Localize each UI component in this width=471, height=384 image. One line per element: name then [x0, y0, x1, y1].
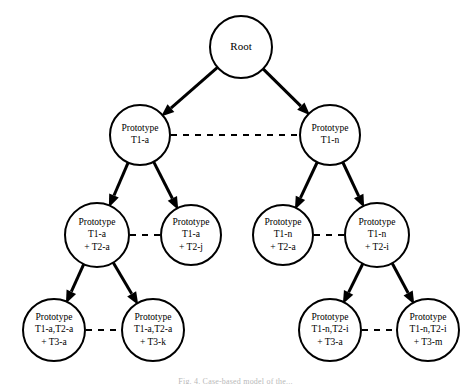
node-label-p-t1n-t2i-line-0: Prototype: [359, 217, 396, 227]
node-label-p-t1n-t2a-line-2: + T2-a: [270, 242, 296, 252]
arrow-root-to-t1n: [262, 68, 310, 115]
node-label-p-t1n-t2i-line-2: + T2-i: [365, 242, 389, 252]
arrow-t1a-t2a-to-t3a: [66, 263, 84, 303]
node-p-t1n-t2i-t3a[interactable]: PrototypeT1-n,T2-i+ T3-a: [299, 299, 361, 361]
solid-edge-layer: [66, 67, 414, 305]
node-label-p-t1a-t2a-t3a-line-0: Prototype: [36, 312, 73, 322]
arrow-t1a-to-t1a-t2j: [153, 161, 178, 210]
node-label-p-t1a-t2a-t3a-line-1: T1-a,T2-a: [35, 324, 74, 334]
node-label-root-line-0: Root: [230, 40, 251, 52]
node-layer: RootPrototypeT1-aPrototypeT1-nPrototypeT…: [23, 16, 459, 361]
node-p-t1a-t2a[interactable]: PrototypeT1-a+ T2-a: [65, 203, 129, 267]
node-label-p-t1n-t2i-t3a-line-0: Prototype: [312, 312, 349, 322]
node-p-t1a-t2a-t3k[interactable]: PrototypeT1-a,T2-a+ T3-k: [122, 299, 184, 361]
node-p-t1a-t2a-t3a[interactable]: PrototypeT1-a,T2-a+ T3-a: [23, 299, 85, 361]
node-label-p-t1n-t2i-t3m-line-0: Prototype: [410, 312, 447, 322]
arrow-t1n-t2i-to-t3a: [343, 263, 363, 304]
figure-caption: Fig. 4. Case-based model of the...: [0, 375, 471, 384]
node-label-p-t1n-t2i-t3m-line-2: + T3-m: [414, 337, 443, 347]
node-label-p-t1a-line-1: T1-a: [131, 135, 150, 145]
node-label-p-t1a-t2a-t3k-line-0: Prototype: [135, 312, 172, 322]
node-label-p-t1a-t2a-line-0: Prototype: [79, 217, 116, 227]
node-p-t1n-t2a[interactable]: PrototypeT1-n+ T2-a: [253, 205, 313, 265]
node-label-p-t1a-t2a-t3k-line-1: T1-a,T2-a: [134, 324, 173, 334]
node-label-p-t1n-line-1: T1-n: [321, 135, 340, 145]
node-label-p-t1a-t2j-line-1: T1-a: [182, 229, 201, 239]
arrow-t1n-t2i-to-t3m: [392, 262, 415, 304]
node-p-t1n-t2i-t3m[interactable]: PrototypeT1-n,T2-i+ T3-m: [397, 299, 459, 361]
node-label-p-t1n-t2i-t3m-line-1: T1-n,T2-i: [409, 324, 447, 334]
node-label-p-t1a-t2a-t3k-line-2: + T3-k: [140, 337, 166, 347]
arrow-t1n-to-t1n-t2i: [342, 161, 364, 208]
node-label-p-t1n-t2a-line-0: Prototype: [265, 217, 302, 227]
arrow-root-to-t1a: [161, 67, 218, 117]
node-label-p-t1a-t2j-line-2: + T2-j: [179, 242, 203, 252]
node-label-p-t1a-line-0: Prototype: [122, 123, 159, 133]
node-label-p-t1n-t2a-line-1: T1-n: [274, 229, 293, 239]
node-label-p-t1n-t2i-line-1: T1-n: [368, 229, 387, 239]
node-label-p-t1a-t2a-line-1: T1-a: [88, 229, 107, 239]
arrow-t1a-to-t1a-t2a: [109, 162, 129, 208]
node-label-p-t1n-line-0: Prototype: [312, 123, 349, 133]
arrow-t1n-to-t1n-t2a: [295, 161, 318, 209]
node-label-p-t1n-t2i-t3a-line-1: T1-n,T2-i: [311, 324, 349, 334]
node-label-p-t1a-t2a-t3a-line-2: + T3-a: [41, 337, 67, 347]
node-root[interactable]: Root: [210, 16, 272, 78]
node-label-p-t1a-t2j-line-0: Prototype: [173, 217, 210, 227]
node-p-t1a[interactable]: PrototypeT1-a: [110, 105, 170, 165]
node-p-t1n[interactable]: PrototypeT1-n: [300, 105, 360, 165]
node-p-t1n-t2i[interactable]: PrototypeT1-n+ T2-i: [345, 203, 409, 267]
arrow-t1a-t2a-to-t3k: [113, 262, 139, 305]
node-label-p-t1a-t2a-line-2: + T2-a: [84, 242, 110, 252]
node-p-t1a-t2j[interactable]: PrototypeT1-a+ T2-j: [161, 205, 221, 265]
node-label-p-t1n-t2i-t3a-line-2: + T3-a: [317, 337, 343, 347]
